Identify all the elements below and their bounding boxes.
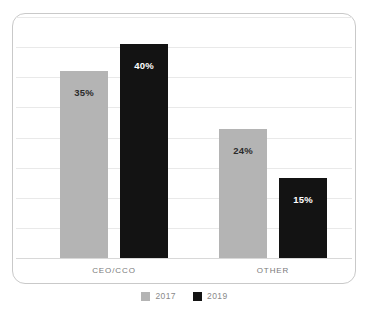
bar-chart-figure: 35%40%CEO/CCO24%15%OTHER 20172019 <box>0 0 369 319</box>
legend-swatch-2017-icon <box>141 292 150 301</box>
legend-label: 2019 <box>207 292 228 301</box>
plot-area: 35%40%CEO/CCO24%15%OTHER <box>16 17 352 280</box>
bar-value-label: 40% <box>120 61 168 71</box>
bar-value-label: 24% <box>219 146 267 156</box>
category-label-ceo-cco: CEO/CCO <box>64 267 164 275</box>
bar-2017-other: 24% <box>219 129 267 258</box>
legend-swatch-2019-icon <box>193 292 202 301</box>
bar-2017-ceo-cco: 35% <box>60 71 108 258</box>
bars-group: 35%40%CEO/CCO24%15%OTHER <box>16 17 352 280</box>
bar-value-label: 35% <box>60 88 108 98</box>
category-label-other: OTHER <box>223 267 323 275</box>
legend-label: 2017 <box>155 292 176 301</box>
bar-2019-ceo-cco: 40% <box>120 44 168 258</box>
chart-legend: 20172019 <box>0 292 369 301</box>
chart-card: 35%40%CEO/CCO24%15%OTHER <box>12 13 356 284</box>
legend-item-2017[interactable]: 2017 <box>141 292 176 301</box>
bar-2019-other: 15% <box>279 178 327 258</box>
bar-value-label: 15% <box>279 195 327 205</box>
legend-item-2019[interactable]: 2019 <box>193 292 228 301</box>
